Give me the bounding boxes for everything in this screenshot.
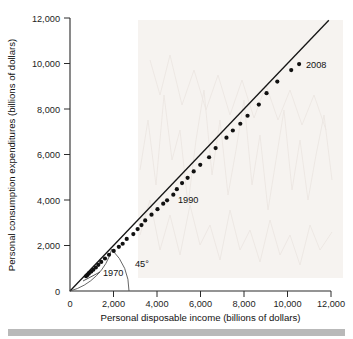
- data-point: [161, 202, 165, 206]
- data-point: [99, 260, 103, 264]
- data-point: [214, 146, 218, 150]
- data-point: [245, 114, 249, 118]
- data-point: [180, 181, 184, 185]
- data-point: [117, 245, 121, 249]
- y-axis-ticks: [64, 18, 70, 246]
- footer-divider-bar: [8, 329, 345, 336]
- data-point: [155, 207, 159, 211]
- data-point: [186, 176, 190, 180]
- data-point: [175, 187, 179, 191]
- annotation-angle: 45°: [135, 259, 149, 269]
- data-point: [131, 232, 135, 236]
- background-watermark: [138, 20, 343, 278]
- x-tick-label: 6,000: [189, 299, 212, 309]
- y-tick-label: 0: [55, 287, 60, 297]
- data-point: [103, 256, 107, 260]
- data-point: [264, 91, 268, 95]
- data-point: [207, 155, 211, 159]
- annotation-2008: 2008: [306, 60, 326, 70]
- y-tick-label: 4,000: [37, 196, 60, 206]
- data-point: [257, 102, 261, 106]
- y-tick-label: 8,000: [37, 105, 60, 115]
- data-point: [112, 249, 116, 253]
- x-tick-label: 4,000: [146, 299, 169, 309]
- data-point: [165, 198, 169, 202]
- x-axis-title: Personal disposable income (billions of …: [101, 312, 301, 323]
- x-tick-label: 10,000: [273, 299, 301, 309]
- data-point: [121, 242, 125, 246]
- data-point: [139, 223, 143, 227]
- x-tick-label: 2,000: [102, 299, 125, 309]
- x-tick-label: 12,000: [317, 299, 345, 309]
- y-tick-label: 2,000: [37, 241, 60, 251]
- data-point: [107, 253, 111, 257]
- y-tick-label: 10,000: [32, 59, 60, 69]
- x-tick-label: 8,000: [233, 299, 256, 309]
- data-point: [192, 169, 196, 173]
- data-point: [231, 128, 235, 132]
- y-tick-label: 6,000: [37, 150, 60, 160]
- data-point: [224, 136, 228, 140]
- data-point: [149, 213, 153, 217]
- y-tick-label: 12,000: [32, 14, 60, 24]
- data-point: [297, 62, 301, 66]
- data-point: [289, 68, 293, 72]
- data-point: [125, 237, 129, 241]
- data-point: [136, 227, 140, 231]
- y-axis-title: Personal consumption expenditures (billi…: [6, 39, 17, 272]
- annotation-1970: 1970: [103, 268, 123, 278]
- scatter-plot-canvas: 12,000 10,000 8,000 6,000 4,000 2,000 0 …: [0, 0, 353, 339]
- data-point: [275, 79, 279, 83]
- chart-figure: 12,000 10,000 8,000 6,000 4,000 2,000 0 …: [0, 0, 353, 339]
- annotation-1990: 1990: [178, 195, 198, 205]
- data-point: [238, 122, 242, 126]
- data-point: [198, 163, 202, 167]
- x-axis-ticks: [114, 291, 332, 297]
- x-tick-label: 0: [67, 299, 72, 309]
- data-point: [143, 218, 147, 222]
- data-point: [171, 193, 175, 197]
